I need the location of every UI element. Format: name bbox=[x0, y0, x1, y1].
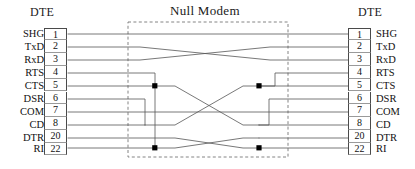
right-signal-label-3: RxD bbox=[376, 54, 396, 66]
junction-dot-left-bottom bbox=[152, 145, 157, 150]
right-pin-box-6: 6 bbox=[348, 92, 371, 105]
left-pin-box-2: 2 bbox=[44, 40, 67, 53]
left-pin-box-5: 5 bbox=[44, 79, 67, 92]
left-signal-label-1: SHG bbox=[23, 28, 44, 40]
right-pin-box-1: 1 bbox=[348, 28, 371, 41]
wire-right-junction-to-rts bbox=[259, 73, 348, 86]
left-signal-label-4: RTS bbox=[25, 67, 44, 79]
right-pin-box-2: 2 bbox=[348, 40, 371, 53]
right-pin-box-8: 8 bbox=[348, 117, 371, 130]
wire-left-rts-to-junction bbox=[68, 73, 155, 86]
null-modem-boundary bbox=[128, 22, 288, 157]
left-signal-label-22: RI bbox=[34, 143, 45, 155]
null-modem-diagram: DTE Null Modem DTE bbox=[0, 0, 415, 169]
left-pin-box-22: 22 bbox=[44, 143, 67, 156]
right-pin-box-20: 20 bbox=[348, 130, 371, 143]
right-signal-label-4: RTS bbox=[376, 67, 395, 79]
left-pin-box-1: 1 bbox=[44, 28, 67, 41]
left-pin-box-8: 8 bbox=[44, 117, 67, 130]
right-signal-label-6: DSR bbox=[376, 93, 396, 105]
right-pin-box-5: 5 bbox=[348, 79, 371, 92]
left-signal-label-8: CD bbox=[29, 119, 44, 131]
wire-left-dsrcd-to-right-rtscts bbox=[145, 86, 259, 125]
wire-ri-to-dtr bbox=[155, 138, 259, 148]
junction-dot-left-top bbox=[152, 83, 157, 88]
left-pin-box-4: 4 bbox=[44, 66, 67, 79]
right-signal-label-8: CD bbox=[376, 119, 391, 131]
right-pin-box-4: 4 bbox=[348, 66, 371, 79]
left-signal-label-5: CTS bbox=[25, 80, 44, 92]
right-signal-label-5: CTS bbox=[376, 80, 395, 92]
wire-rxd-to-txd bbox=[68, 47, 348, 60]
left-pin-box-6: 6 bbox=[44, 92, 67, 105]
wire-group bbox=[68, 34, 348, 148]
right-pin-box-3: 3 bbox=[348, 53, 371, 66]
left-pin-box-3: 3 bbox=[44, 53, 67, 66]
left-pin-box-7: 7 bbox=[44, 104, 67, 117]
wire-left-rtscts-to-right-dsrcd bbox=[155, 86, 259, 125]
left-signal-label-6: DSR bbox=[24, 93, 44, 105]
right-pin-box-7: 7 bbox=[348, 104, 371, 117]
right-signal-label-22: RI bbox=[376, 143, 387, 155]
junction-dots bbox=[152, 83, 261, 150]
right-signal-label-1: SHG bbox=[376, 28, 397, 40]
right-signal-label-2: TxD bbox=[376, 41, 395, 53]
left-pin-box-20: 20 bbox=[44, 130, 67, 143]
right-pin-box-22: 22 bbox=[348, 143, 371, 156]
left-signal-label-2: TxD bbox=[25, 41, 44, 53]
junction-dot-right-bottom bbox=[256, 145, 261, 150]
left-signal-label-7: COM bbox=[20, 106, 44, 118]
right-signal-label-7: COM bbox=[376, 106, 400, 118]
junction-dot-right-top bbox=[256, 83, 261, 88]
left-signal-label-3: RxD bbox=[24, 54, 44, 66]
